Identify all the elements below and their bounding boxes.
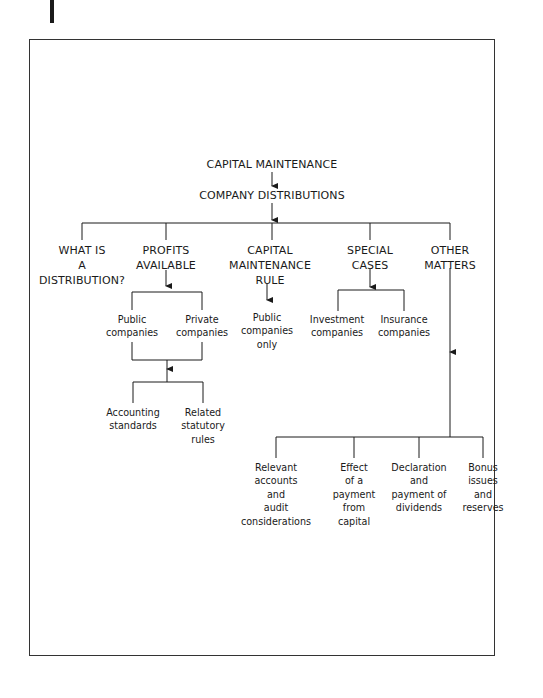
- node-line: accounts: [241, 474, 311, 487]
- node-line: from: [333, 501, 376, 514]
- node-line: Related: [181, 406, 225, 419]
- node-line: payment of: [391, 488, 446, 501]
- node-label: CAPITAL MAINTENANCE: [207, 157, 338, 172]
- node-line: CAPITAL: [229, 243, 311, 258]
- node-public-companies: Public companies: [106, 313, 158, 340]
- node-what-is-a-distribution: WHAT IS A DISTRIBUTION?: [39, 243, 125, 288]
- node-public-companies-only: Public companies only: [241, 311, 293, 351]
- node-other-matters: OTHER MATTERS: [424, 243, 476, 273]
- node-line: companies: [106, 326, 158, 339]
- node-line: Insurance: [378, 313, 430, 326]
- node-line: only: [241, 338, 293, 351]
- node-line: statutory: [181, 419, 225, 432]
- node-line: RULE: [229, 273, 311, 288]
- node-line: Public: [106, 313, 158, 326]
- node-line: A: [39, 258, 125, 273]
- node-line: companies: [241, 324, 293, 337]
- node-line: DISTRIBUTION?: [39, 273, 125, 288]
- node-line: audit: [241, 501, 311, 514]
- node-investment-companies: Investment companies: [310, 313, 364, 340]
- node-line: companies: [378, 326, 430, 339]
- node-insurance-companies: Insurance companies: [378, 313, 430, 340]
- node-line: Private: [176, 313, 228, 326]
- node-effect-of-payment-from-capital: Effect of a payment from capital: [333, 461, 376, 528]
- node-line: of a: [333, 474, 376, 487]
- node-related-statutory-rules: Related statutory rules: [181, 406, 225, 446]
- node-line: companies: [176, 326, 228, 339]
- node-line: standards: [106, 419, 160, 432]
- node-private-companies: Private companies: [176, 313, 228, 340]
- node-line: issues: [462, 474, 503, 487]
- node-line: WHAT IS: [39, 243, 125, 258]
- node-line: PROFITS: [136, 243, 196, 258]
- node-line: and: [391, 474, 446, 487]
- node-line: considerations: [241, 515, 311, 528]
- node-line: Bonus: [462, 461, 503, 474]
- node-accounting-standards: Accounting standards: [106, 406, 160, 433]
- node-line: Declaration: [391, 461, 446, 474]
- node-line: OTHER: [424, 243, 476, 258]
- node-line: AVAILABLE: [136, 258, 196, 273]
- node-profits-available: PROFITS AVAILABLE: [136, 243, 196, 273]
- node-line: payment: [333, 488, 376, 501]
- node-special-cases: SPECIAL CASES: [347, 243, 393, 273]
- node-declaration-payment-dividends: Declaration and payment of dividends: [391, 461, 446, 515]
- node-line: MATTERS: [424, 258, 476, 273]
- node-line: Public: [241, 311, 293, 324]
- node-line: rules: [181, 433, 225, 446]
- node-line: dividends: [391, 501, 446, 514]
- node-line: and: [241, 488, 311, 501]
- node-line: and: [462, 488, 503, 501]
- node-capital-maintenance: CAPITAL MAINTENANCE: [207, 157, 338, 172]
- node-bonus-issues-reserves: Bonus issues and reserves: [462, 461, 503, 515]
- node-company-distributions: COMPANY DISTRIBUTIONS: [199, 188, 345, 203]
- node-label: COMPANY DISTRIBUTIONS: [199, 188, 345, 203]
- node-line: CASES: [347, 258, 393, 273]
- node-line: MAINTENANCE: [229, 258, 311, 273]
- node-line: Effect: [333, 461, 376, 474]
- node-line: reserves: [462, 501, 503, 514]
- node-line: capital: [333, 515, 376, 528]
- node-line: companies: [310, 326, 364, 339]
- node-line: Investment: [310, 313, 364, 326]
- node-capital-maintenance-rule: CAPITAL MAINTENANCE RULE: [229, 243, 311, 288]
- node-line: Relevant: [241, 461, 311, 474]
- node-relevant-accounts: Relevant accounts and audit consideratio…: [241, 461, 311, 528]
- node-line: Accounting: [106, 406, 160, 419]
- node-line: SPECIAL: [347, 243, 393, 258]
